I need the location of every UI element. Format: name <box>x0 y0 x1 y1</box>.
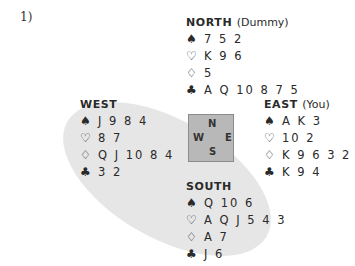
compass-east: E <box>225 132 232 143</box>
player-role: (You) <box>302 98 330 111</box>
diamond-icon: ♢ <box>80 147 98 164</box>
spade-icon: ♠ <box>186 195 204 212</box>
diamonds-cards: K 9 6 3 2 <box>282 148 351 162</box>
compass-south: S <box>209 146 216 157</box>
heart-icon: ♡ <box>264 130 282 147</box>
spades-cards: 7 5 2 <box>204 32 243 46</box>
heart-icon: ♡ <box>80 130 98 147</box>
clubs-cards: 3 2 <box>98 165 122 179</box>
hearts-cards: 8 7 <box>98 131 122 145</box>
spade-icon: ♠ <box>186 31 204 48</box>
player-name: SOUTH <box>186 180 232 193</box>
clubs-cards: J 6 <box>204 247 224 261</box>
hand-east-header: EAST (You) <box>264 96 351 113</box>
hand-north: NORTH (Dummy) ♠7 5 2 ♡K 9 6 ♢5 ♣A Q 10 8… <box>186 14 300 99</box>
hearts-cards: K 9 6 <box>204 49 244 63</box>
compass-west: W <box>193 132 204 143</box>
spades-cards: J 9 8 4 <box>98 114 148 128</box>
diamonds-cards: Q J 10 8 4 <box>98 148 174 162</box>
heart-icon: ♡ <box>186 212 204 229</box>
hand-west: WEST ♠J 9 8 4 ♡8 7 ♢Q J 10 8 4 ♣3 2 <box>80 96 174 181</box>
player-name: NORTH <box>186 16 232 29</box>
spades-cards: Q 10 6 <box>204 196 254 210</box>
diamond-icon: ♢ <box>264 147 282 164</box>
clubs-cards: K 9 4 <box>282 165 322 179</box>
player-name: WEST <box>80 98 117 111</box>
club-icon: ♣ <box>186 82 204 99</box>
diamonds-cards: 5 <box>204 66 213 80</box>
problem-number: 1) <box>20 10 32 24</box>
spade-icon: ♠ <box>264 113 282 130</box>
club-icon: ♣ <box>186 246 204 263</box>
hand-north-header: NORTH (Dummy) <box>186 14 300 31</box>
player-role: (Dummy) <box>237 16 289 29</box>
compass-north: N <box>208 118 216 129</box>
clubs-cards: A Q 10 8 7 5 <box>204 83 300 97</box>
diamond-icon: ♢ <box>186 229 204 246</box>
hand-south-header: SOUTH <box>186 178 287 195</box>
spades-cards: A K 3 <box>282 114 322 128</box>
hand-west-header: WEST <box>80 96 174 113</box>
diamond-icon: ♢ <box>186 65 204 82</box>
hearts-cards: A Q J 5 4 3 <box>204 213 287 227</box>
compass-box: N W E S <box>188 114 234 162</box>
hand-east: EAST (You) ♠A K 3 ♡10 2 ♢K 9 6 3 2 ♣K 9 … <box>264 96 351 181</box>
hearts-cards: 10 2 <box>282 131 316 145</box>
heart-icon: ♡ <box>186 48 204 65</box>
player-name: EAST <box>264 98 298 111</box>
diamonds-cards: A 7 <box>204 230 229 244</box>
hand-south: SOUTH ♠Q 10 6 ♡A Q J 5 4 3 ♢A 7 ♣J 6 <box>186 178 287 263</box>
club-icon: ♣ <box>80 164 98 181</box>
spade-icon: ♠ <box>80 113 98 130</box>
